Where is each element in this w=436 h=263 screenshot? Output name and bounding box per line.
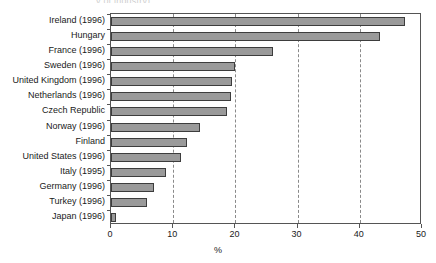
bar-row bbox=[111, 59, 422, 74]
x-axis-tick-20 bbox=[234, 224, 235, 228]
x-axis-tick-30 bbox=[297, 224, 298, 228]
bar bbox=[111, 198, 147, 207]
y-axis-tick bbox=[107, 44, 111, 45]
bar-row bbox=[111, 74, 422, 89]
bar bbox=[111, 92, 231, 101]
bar-row bbox=[111, 180, 422, 195]
y-axis-tick bbox=[107, 104, 111, 105]
bar bbox=[111, 183, 154, 192]
y-axis-label: Germany (1996) bbox=[39, 179, 105, 194]
y-axis-label: Japan (1996) bbox=[52, 209, 105, 224]
y-axis-label: Hungary bbox=[71, 28, 105, 43]
y-axis-label: United States (1996) bbox=[22, 149, 105, 164]
bar bbox=[111, 77, 232, 86]
x-axis-tick-10 bbox=[172, 224, 173, 228]
chart-title-remnant: y of industry) bbox=[96, 0, 256, 3]
y-axis-tick bbox=[107, 165, 111, 166]
y-axis-label: Turkey (1996) bbox=[49, 194, 105, 209]
bar-chart-figure: y of industry) Ireland (1996)HungaryFran… bbox=[0, 0, 436, 263]
bar-row bbox=[111, 29, 422, 44]
y-axis-tick bbox=[107, 180, 111, 181]
x-axis-tick-label: 30 bbox=[282, 229, 312, 239]
y-axis-tick bbox=[107, 210, 111, 211]
x-axis-title: % bbox=[0, 245, 436, 255]
y-axis-label: United Kingdom (1996) bbox=[12, 73, 105, 88]
x-axis-tick-label: 10 bbox=[157, 229, 187, 239]
y-axis-label: France (1996) bbox=[48, 43, 105, 58]
bar bbox=[111, 47, 273, 56]
bar-row bbox=[111, 150, 422, 165]
y-axis-tick bbox=[107, 89, 111, 90]
bar bbox=[111, 17, 405, 26]
bar-row bbox=[111, 104, 422, 119]
x-axis-tick-label: 40 bbox=[344, 229, 374, 239]
x-axis-tick-0 bbox=[110, 224, 111, 228]
bar-row bbox=[111, 89, 422, 104]
bar bbox=[111, 62, 235, 71]
bar bbox=[111, 107, 227, 116]
plot-area bbox=[110, 13, 421, 224]
bar-row bbox=[111, 14, 422, 29]
y-axis-label: Ireland (1996) bbox=[49, 13, 105, 28]
y-axis-labels: Ireland (1996)HungaryFrance (1996)Sweden… bbox=[0, 13, 105, 224]
y-axis-tick bbox=[107, 195, 111, 196]
y-axis-label: Sweden (1996) bbox=[44, 58, 105, 73]
y-axis-label: Norway (1996) bbox=[46, 119, 105, 134]
y-axis-label: Italy (1995) bbox=[60, 164, 105, 179]
bar-row bbox=[111, 120, 422, 135]
x-axis-tick-label: 0 bbox=[95, 229, 125, 239]
y-axis-tick bbox=[107, 59, 111, 60]
y-axis-label: Netherlands (1996) bbox=[28, 88, 105, 103]
y-axis-tick bbox=[107, 29, 111, 30]
bar bbox=[111, 213, 116, 222]
y-axis-tick bbox=[107, 74, 111, 75]
x-axis-tick-label: 50 bbox=[406, 229, 436, 239]
y-axis-label: Finland bbox=[75, 134, 105, 149]
bar-row bbox=[111, 210, 422, 225]
bar-row bbox=[111, 135, 422, 150]
bar-row bbox=[111, 195, 422, 210]
y-axis-label: Czech Republic bbox=[42, 103, 105, 118]
y-axis-tick bbox=[107, 14, 111, 15]
x-axis-tick-50 bbox=[421, 224, 422, 228]
bar bbox=[111, 123, 200, 132]
bar-row bbox=[111, 44, 422, 59]
y-axis-tick bbox=[107, 120, 111, 121]
bar-row bbox=[111, 165, 422, 180]
bar bbox=[111, 153, 181, 162]
bar bbox=[111, 32, 380, 41]
y-axis-tick bbox=[107, 135, 111, 136]
x-axis-tick-label: 20 bbox=[219, 229, 249, 239]
y-axis-tick bbox=[107, 150, 111, 151]
bar bbox=[111, 168, 166, 177]
bar bbox=[111, 138, 187, 147]
x-axis-tick-40 bbox=[359, 224, 360, 228]
